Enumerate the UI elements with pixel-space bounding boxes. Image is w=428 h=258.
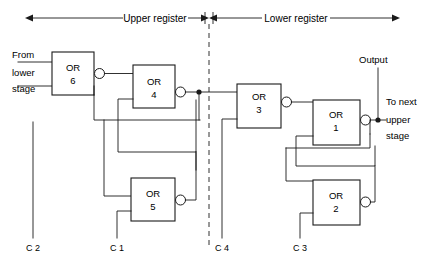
output-label: Output [359, 54, 388, 65]
input-label-line2: lower [12, 67, 35, 78]
gate-or2-type: OR [329, 190, 343, 201]
input-label-line1: From [12, 49, 34, 60]
next-stage-label-line3: stage [386, 130, 409, 141]
gate-or5-type: OR [146, 188, 160, 199]
wire-c3-to-or2 [300, 213, 313, 238]
gate-or6: OR 6 [52, 52, 105, 95]
gate-or2-number: 2 [333, 203, 338, 214]
control-label-c3: C 3 [293, 243, 307, 253]
gate-or6-number: 6 [70, 75, 75, 86]
wire-or1-to-or2 [286, 148, 313, 181]
gate-or1-type: OR [329, 109, 343, 120]
lower-register-label: Lower register [264, 13, 328, 24]
gate-or3-number: 3 [256, 104, 261, 115]
gate-or6-type: OR [66, 62, 80, 73]
wire-or5-output [186, 152, 197, 200]
wire-c4-to-or3 [222, 119, 237, 238]
next-stage-label-line2: upper [386, 114, 410, 125]
gate-or1-number: 1 [333, 122, 338, 133]
gate-or2: OR 2 [313, 180, 371, 225]
wire-or2-output [371, 166, 376, 202]
gate-or4: OR 4 [133, 65, 186, 108]
next-stage-label-line1: To next [386, 96, 417, 107]
gate-or1: OR 1 [313, 100, 371, 145]
diagram-canvas: OR 6 OR 4 [0, 0, 428, 258]
logic-diagram: OR 6 OR 4 [0, 0, 428, 258]
wire-c1-to-or5 [117, 211, 131, 238]
control-label-c4: C 4 [215, 243, 229, 253]
gate-or3-type: OR [252, 91, 266, 102]
control-label-c1: C 1 [110, 243, 124, 253]
upper-register-label: Upper register [123, 13, 187, 24]
control-label-c2: C 2 [26, 243, 40, 253]
gate-or5: OR 5 [131, 178, 186, 221]
gate-or4-type: OR [147, 76, 161, 87]
gate-or4-number: 4 [151, 89, 156, 100]
gate-or3: OR 3 [237, 84, 292, 128]
gate-or5-number: 5 [150, 201, 155, 212]
input-label-line3: stage [12, 83, 35, 94]
